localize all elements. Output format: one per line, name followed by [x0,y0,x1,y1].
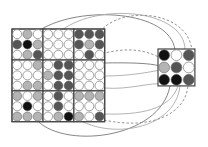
cell-circle [54,40,63,49]
cell-circle [74,40,83,49]
diagram-canvas [0,0,208,147]
cell-circle [33,81,42,90]
cell-circle [74,71,83,80]
cell-circle [33,50,42,59]
cell-circle [74,50,83,59]
cell-circle [13,81,22,90]
cell-circle [95,50,104,59]
cell-circle [13,30,22,39]
cell-circle [44,50,53,59]
cell-circle [44,91,53,100]
cell-circle [23,50,32,59]
cell-circle [64,40,73,49]
cell-circle [64,61,73,70]
cell-circle [54,30,63,39]
cell-circle [85,61,94,70]
cell-circle [64,112,73,121]
cell-circle [74,102,83,111]
cell-circle [85,40,94,49]
cell-circle [85,112,94,121]
cell-circle [95,40,104,49]
cell-circle [44,81,53,90]
cell-circle [85,30,94,39]
cell-circle [95,81,104,90]
cell-circle [44,61,53,70]
cell-circle [23,81,32,90]
cell-circle [23,40,32,49]
cell-circle [13,91,22,100]
cell-circle [74,112,83,121]
cell-circle [64,81,73,90]
cell-circle [64,50,73,59]
cell-circle [95,71,104,80]
cell-circle [23,30,32,39]
cell-circle [54,50,63,59]
cell-circle [13,40,22,49]
grid-mapping-diagram [0,0,208,147]
cell-circle [44,112,53,121]
cell-circle [64,91,73,100]
cell-circle [54,71,63,80]
cell-circle [74,81,83,90]
connection-curve-light [104,84,164,89]
cell-circle [95,102,104,111]
cell-circle [85,91,94,100]
connection-curve-light [104,86,178,114]
cell-circle [33,61,42,70]
cell-circle [64,71,73,80]
cell-circle [183,62,194,73]
cell-circle [23,112,32,121]
large-grid [12,29,105,122]
cell-circle [13,50,22,59]
cell-circle [23,102,32,111]
cell-circle [33,112,42,121]
connection-curve-dashed [98,50,160,58]
cell-circle [44,30,53,39]
cell-circle [54,61,63,70]
cell-circle [23,91,32,100]
cell-circle [23,61,32,70]
cell-circle [74,30,83,39]
cell-circle [44,71,53,80]
cell-circle [183,74,194,85]
cell-circle [159,50,170,61]
cell-circle [171,62,182,73]
small-grid [158,49,195,86]
cell-circle [13,112,22,121]
cell-circle [13,71,22,80]
cell-circle [64,102,73,111]
cell-circle [171,50,182,61]
connection-curve-light [104,70,160,76]
cell-circle [23,71,32,80]
cell-circle [85,102,94,111]
cell-circle [44,102,53,111]
cell-circle [159,74,170,85]
cell-circle [54,81,63,90]
cell-circle [13,102,22,111]
cell-circle [159,62,170,73]
cell-circle [85,50,94,59]
cell-circle [95,112,104,121]
cell-circle [64,30,73,39]
cell-circle [54,91,63,100]
cell-circle [74,61,83,70]
cell-circle [171,74,182,85]
cell-circle [74,91,83,100]
cell-circle [33,91,42,100]
cell-circle [95,61,104,70]
cell-circle [54,112,63,121]
cell-circle [54,102,63,111]
cell-circle [183,50,194,61]
cell-circle [95,91,104,100]
cell-circle [33,30,42,39]
cell-circle [85,81,94,90]
cell-circle [13,61,22,70]
cell-circle [85,71,94,80]
cell-circle [33,40,42,49]
cell-circle [44,40,53,49]
cell-circle [33,102,42,111]
cell-circle [33,71,42,80]
cell-circle [95,30,104,39]
